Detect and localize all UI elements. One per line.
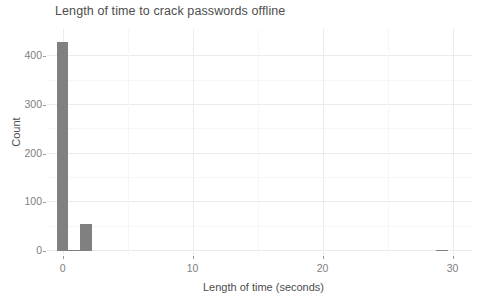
y-tickmark: [43, 202, 46, 203]
y-tick-label: 100: [8, 195, 42, 207]
histogram-bar: [436, 250, 448, 251]
x-axis-label: Length of time (seconds): [77, 281, 450, 293]
x-tickmark: [63, 256, 64, 259]
x-tickmark: [453, 256, 454, 259]
y-tickmark: [43, 251, 46, 252]
y-tick-label: 0: [8, 244, 42, 256]
gridline-major-horizontal: [47, 250, 472, 251]
gridline-major-horizontal: [47, 201, 472, 202]
gridline-major-horizontal: [47, 104, 472, 105]
gridline-major-vertical: [323, 29, 324, 255]
x-tickmark: [193, 256, 194, 259]
gridline-minor-horizontal: [47, 128, 472, 129]
histogram-bar: [68, 250, 80, 251]
y-tickmark: [43, 56, 46, 57]
gridline-major-vertical: [193, 29, 194, 255]
x-tick-label: 30: [433, 262, 473, 274]
x-tick-label: 10: [173, 262, 213, 274]
chart-title: Length of time to crack passwords offlin…: [55, 4, 285, 18]
gridline-major-horizontal: [47, 55, 472, 56]
gridline-major-vertical: [453, 29, 454, 255]
histogram-bar: [57, 42, 69, 251]
chart-figure: Length of time to crack passwords offlin…: [0, 0, 481, 305]
histogram-bar: [80, 224, 92, 251]
gridline-minor-vertical: [388, 29, 389, 255]
y-tick-label: 300: [8, 98, 42, 110]
x-tick-label: 0: [43, 262, 83, 274]
y-tickmark: [43, 154, 46, 155]
x-axis-ticks: 0102030: [0, 262, 481, 278]
x-tick-label: 20: [303, 262, 343, 274]
y-tick-label: 400: [8, 49, 42, 61]
gridline-minor-vertical: [258, 29, 259, 255]
plot-panel: [47, 29, 472, 255]
gridline-minor-horizontal: [47, 177, 472, 178]
gridline-minor-horizontal: [47, 226, 472, 227]
x-tickmark: [323, 256, 324, 259]
y-tickmark: [43, 105, 46, 106]
y-tick-label: 200: [8, 147, 42, 159]
gridline-minor-horizontal: [47, 80, 472, 81]
y-axis-ticks: 0100200300400: [4, 0, 42, 305]
gridline-minor-vertical: [128, 29, 129, 255]
gridline-major-horizontal: [47, 153, 472, 154]
